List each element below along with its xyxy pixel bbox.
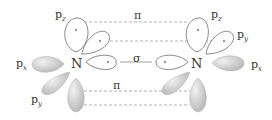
left-px-lobe-filled [32,56,64,72]
right-nitrogen-label: N [191,57,202,70]
right-py-lobe-outline [206,31,234,54]
left-pz-lobe-filled [68,78,85,112]
pi-bond-bottom-label: π [113,80,120,91]
right-pz-lobe-filled [190,78,207,112]
left-px-label: px [16,58,27,72]
left-py-label: py [31,94,42,108]
left-nitrogen-label: N [71,57,82,70]
left-sigma-lobe-outline [86,55,116,69]
left-py-lobe-filled [42,72,70,95]
right-pz-label: pz [211,9,222,23]
right-px-label: px [251,59,262,73]
right-sigma-lobe-outline [156,55,188,69]
left-pz-label: pz [55,9,66,23]
right-px-lobe-filled [212,56,244,71]
right-pz-lobe-outline [186,18,208,52]
sigma-bond-label: σ [133,53,141,64]
pi-bond-top-label: π [134,10,141,21]
right-py-label: py [237,29,248,43]
